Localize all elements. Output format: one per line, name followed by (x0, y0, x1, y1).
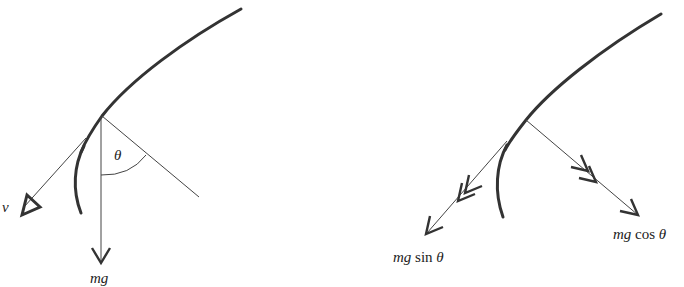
angle-arc (101, 155, 146, 175)
velocity-label: v (2, 199, 9, 215)
diagram-canvas: θ v mg mg sin θ mg cos θ (0, 0, 684, 287)
path-curve-lower (497, 145, 507, 217)
tangential-component-label: mg sin θ (393, 249, 444, 265)
path-curve (505, 14, 661, 150)
weight-label: mg (90, 270, 109, 286)
path-curve-lower (75, 146, 84, 213)
angle-label: θ (114, 147, 122, 163)
normal-component-line (526, 120, 638, 215)
right-figure: mg sin θ mg cos θ (393, 14, 667, 265)
path-curve (81, 9, 241, 152)
tangential-double-arrowhead-icon (465, 175, 482, 193)
normal-double-arrowhead-icon (571, 155, 588, 171)
left-figure: θ v mg (2, 9, 241, 286)
normal-component-label: mg cos θ (613, 226, 667, 242)
velocity-arrowhead-icon (22, 195, 40, 215)
